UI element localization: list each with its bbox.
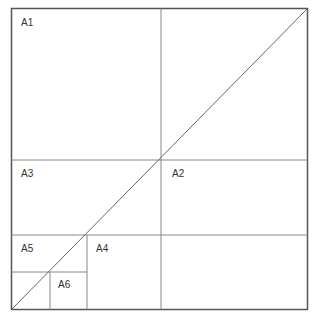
square-diagram	[0, 0, 313, 319]
label-a5: A5	[21, 244, 33, 254]
diagonal-line	[12, 9, 308, 310]
label-a6: A6	[58, 280, 70, 290]
label-a2: A2	[172, 169, 184, 179]
label-a3: A3	[21, 169, 33, 179]
label-a4: A4	[96, 244, 108, 254]
label-a1: A1	[21, 18, 33, 28]
